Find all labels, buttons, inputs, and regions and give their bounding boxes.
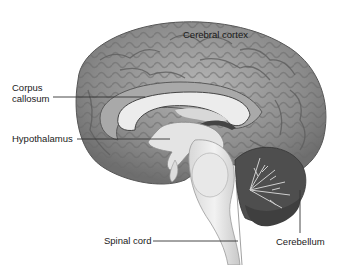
label-corpus-callosum-line2: callosum bbox=[12, 93, 72, 104]
label-corpus-callosum: Corpus callosum bbox=[12, 82, 72, 104]
label-cerebellum: Cerebellum bbox=[276, 236, 325, 247]
label-cerebral-cortex: Cerebral cortex bbox=[183, 29, 248, 40]
label-hypothalamus: Hypothalamus bbox=[12, 133, 73, 144]
cerebellum bbox=[235, 147, 306, 226]
label-spinal-cord: Spinal cord bbox=[104, 235, 152, 246]
label-corpus-callosum-line1: Corpus bbox=[12, 82, 72, 93]
